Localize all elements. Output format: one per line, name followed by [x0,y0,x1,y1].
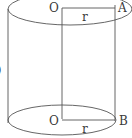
label-top-center-O: O [49,1,59,15]
label-bottom-radius-r: r [82,122,88,136]
label-top-point-A: A [117,1,127,15]
cylinder-figure: O A r O B r ) [0,0,132,138]
top-ellipse [8,0,132,25]
clipped-left-glyph: ) [0,63,2,77]
label-bottom-point-B: B [119,114,128,128]
label-bottom-center-O: O [49,114,59,128]
cylinder-diagram: O A r O B r ) [0,0,132,138]
label-top-radius-r: r [82,10,88,24]
